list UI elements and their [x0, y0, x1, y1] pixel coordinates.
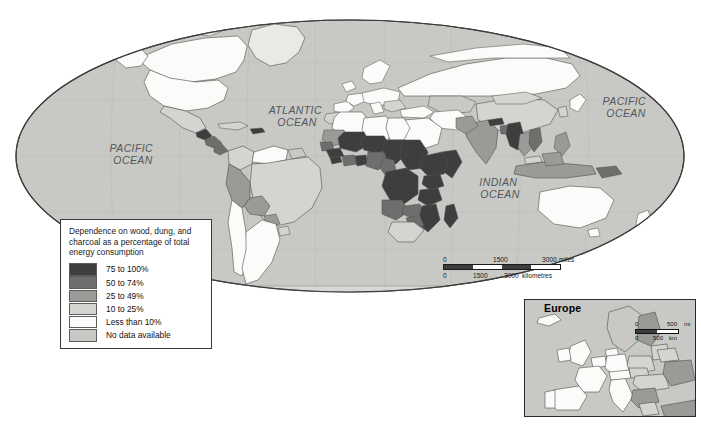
ocean-label-indian-line2: OCEAN — [480, 188, 519, 200]
legend-label-10-25: 10 to 25% — [106, 304, 144, 314]
scalebar-miles-zero: 0 — [443, 256, 447, 263]
legend-swatch-25-49 — [69, 290, 97, 302]
inset-scalebar-miles-unit: mi — [684, 321, 690, 327]
legend-title: Dependence on wood, dung, and charcoal a… — [69, 226, 204, 258]
world-map: PACIFIC OCEAN ATLANTIC OCEAN INDIAN OCEA… — [0, 0, 701, 424]
ocean-label-pacific-east: PACIFIC OCEAN — [603, 95, 650, 119]
legend-label-25-49: 25 to 49% — [106, 291, 144, 301]
inset-portugal — [545, 390, 555, 408]
scalebar-km-mid: 1500 — [473, 272, 488, 279]
ocean-label-pacific-west: PACIFIC OCEAN — [110, 142, 157, 166]
scalebar-km-max: 3000 — [504, 272, 519, 279]
inset-ireland — [557, 348, 571, 362]
inset-scalebar-miles-labels: 0 500 mi — [635, 321, 679, 329]
scalebar-segment-4 — [531, 265, 560, 269]
inset-title: Europe — [544, 302, 581, 314]
inset-scalebar-bar — [635, 329, 679, 334]
legend-label-no-data: No data available — [106, 330, 171, 340]
inset-greece — [639, 402, 659, 416]
region-borneo — [542, 152, 564, 166]
map-legend: Dependence on wood, dung, and charcoal a… — [60, 219, 212, 349]
scalebar-km-zero: 0 — [443, 272, 447, 279]
map-scalebar: 0 1500 3000 miles 0 1500 3000 kilometres — [443, 256, 561, 280]
inset-scalebar: 0 500 mi 0 500 km — [635, 321, 679, 342]
inset-scalebar-km-unit: km — [669, 335, 677, 341]
scalebar-km-labels: 0 1500 3000 kilometres — [443, 272, 561, 280]
europe-inset-map[interactable]: Europe 0 500 mi 0 500 km — [524, 299, 696, 417]
inset-scalebar-miles-zero: 0 — [635, 321, 638, 327]
scalebar-segment-1 — [444, 265, 473, 269]
legend-swatch-75-100 — [69, 263, 97, 275]
inset-scalebar-miles-max: 500 — [667, 321, 677, 327]
europe-inset-canvas — [525, 300, 696, 417]
inset-belarus — [657, 348, 679, 362]
legend-swatch-no-data — [69, 329, 97, 341]
scalebar-segment-3 — [502, 265, 531, 269]
legend-item-75-100[interactable]: 75 to 100% — [69, 263, 204, 276]
ocean-label-atlantic: ATLANTIC OCEAN — [268, 104, 326, 128]
ocean-label-pacific-east-line2: OCEAN — [606, 107, 645, 119]
ocean-label-indian: INDIAN OCEAN — [479, 176, 520, 200]
legend-item-50-74[interactable]: 50 to 74% — [69, 276, 204, 289]
ocean-label-atlantic-line1: ATLANTIC — [268, 104, 322, 116]
legend-swatch-50-74 — [69, 276, 97, 288]
scalebar-km-unit: kilometres — [522, 272, 552, 279]
legend-swatch-less-than-10 — [69, 316, 97, 328]
scalebar-miles-unit: miles — [559, 256, 574, 263]
region-ivory-coast — [342, 155, 357, 166]
legend-label-50-74: 50 to 74% — [106, 278, 144, 288]
inset-scalebar-km-max: 500 — [653, 335, 663, 341]
region-uruguay — [278, 226, 290, 236]
scalebar-miles-max: 3000 — [542, 256, 557, 263]
legend-item-no-data[interactable]: No data available — [69, 329, 204, 342]
legend-label-less-than-10: Less than 10% — [106, 317, 161, 327]
legend-item-10-25[interactable]: 10 to 25% — [69, 302, 204, 315]
scalebar-miles-labels: 0 1500 3000 miles — [443, 256, 561, 264]
inset-scalebar-segment-2 — [657, 330, 678, 333]
inset-scalebar-km-labels: 0 500 km — [635, 335, 679, 343]
scalebar-segment-2 — [473, 265, 502, 269]
scalebar-miles-mid: 1500 — [493, 256, 508, 263]
legend-item-less-than-10[interactable]: Less than 10% — [69, 316, 204, 329]
inset-switzerland-austria — [609, 370, 631, 380]
ocean-label-pacific-east-line1: PACIFIC — [603, 95, 646, 107]
inset-scalebar-km-zero: 0 — [635, 335, 638, 341]
legend-label-75-100: 75 to 100% — [106, 264, 148, 274]
legend-swatch-10-25 — [69, 303, 97, 315]
inset-scalebar-segment-1 — [636, 330, 657, 333]
ocean-label-pacific-west-line1: PACIFIC — [110, 142, 153, 154]
ocean-label-pacific-west-line2: OCEAN — [113, 154, 152, 166]
legend-item-25-49[interactable]: 25 to 49% — [69, 289, 204, 302]
ocean-label-indian-line1: INDIAN — [479, 176, 517, 188]
ocean-label-atlantic-line2: OCEAN — [277, 116, 316, 128]
region-korea — [558, 106, 568, 117]
